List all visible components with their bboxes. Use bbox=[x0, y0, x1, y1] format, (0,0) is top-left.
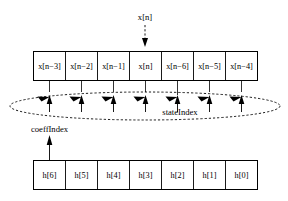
arrow-up-icon bbox=[47, 95, 53, 104]
arrow-up-icon bbox=[79, 95, 85, 104]
arrow-curve-icon bbox=[38, 97, 50, 102]
state-cell-label: x[n−4] bbox=[230, 62, 253, 71]
state-cell-label: x[n−1] bbox=[102, 62, 125, 71]
state-cell-label: x[n] bbox=[139, 62, 153, 71]
arrow-up-icon bbox=[207, 95, 213, 104]
coeff-cell-label: h[6] bbox=[43, 171, 57, 180]
state-cell-label: x[n−5] bbox=[198, 62, 221, 71]
arrow-curve-icon bbox=[230, 97, 242, 102]
state-cell-label: x[n−6] bbox=[166, 62, 189, 71]
coeff-cell-label: h[2] bbox=[171, 171, 185, 180]
arrow-up-icon bbox=[47, 135, 53, 145]
state-index-label: stateIndex bbox=[162, 107, 198, 117]
coeff-cell-label: h[1] bbox=[203, 171, 217, 180]
arrow-curve-icon bbox=[70, 97, 82, 102]
coeff-cell-label: h[4] bbox=[107, 171, 121, 180]
state-cell-label: x[n−2] bbox=[70, 62, 93, 71]
arrow-down-icon bbox=[142, 38, 148, 47]
arrow-curve-icon bbox=[166, 97, 178, 102]
coeff-index-label: coeffIndex bbox=[31, 124, 69, 134]
diagram-canvas: x[n] x[n−3] x[n−2] x[n−1] x[n] x[n−6] x[… bbox=[0, 0, 288, 201]
arrow-up-icon bbox=[111, 95, 117, 104]
circular-buffer-ring bbox=[10, 92, 280, 120]
coeff-cell-label: h[5] bbox=[75, 171, 89, 180]
arrow-curve-icon bbox=[134, 97, 146, 102]
coeff-cell-label: h[0] bbox=[235, 171, 249, 180]
arrow-curve-icon bbox=[102, 97, 114, 102]
arrow-curve-icon bbox=[198, 97, 210, 102]
coeff-cell-label: h[3] bbox=[139, 171, 153, 180]
state-cell-label: x[n−3] bbox=[38, 62, 61, 71]
input-signal-label: x[n] bbox=[138, 12, 152, 22]
arrow-up-icon bbox=[143, 95, 149, 104]
arrow-up-icon bbox=[175, 95, 181, 104]
circular-buffer-diagram: x[n] x[n−3] x[n−2] x[n−1] x[n] x[n−6] x[… bbox=[0, 0, 288, 201]
